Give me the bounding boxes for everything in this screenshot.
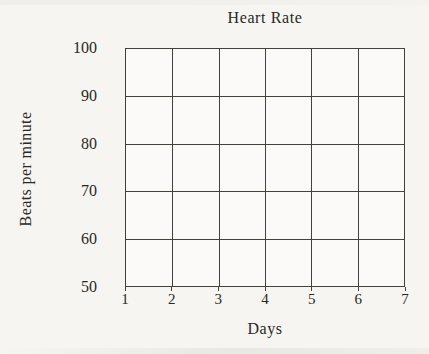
y-tick-label: 100: [40, 40, 97, 56]
grid-line-horizontal: [126, 191, 404, 192]
x-axis-tick-mark: [405, 287, 406, 291]
x-tick-label: 4: [250, 292, 280, 307]
y-tick-label: 60: [40, 231, 97, 247]
plot-area: [125, 48, 405, 287]
y-tick-label: 80: [40, 136, 97, 152]
grid-line-vertical: [219, 49, 220, 286]
grid-line-horizontal: [126, 144, 404, 145]
x-axis-tick-mark: [171, 287, 172, 291]
chart: Heart Rate Beats per minute 100908070605…: [0, 0, 429, 354]
x-axis-tick-mark: [311, 287, 312, 291]
x-axis-tick-mark: [125, 287, 126, 291]
x-tick-label: 7: [390, 292, 420, 307]
grid-line-vertical: [358, 49, 359, 286]
y-tick-label: 90: [40, 88, 97, 104]
grid-line-vertical: [311, 49, 312, 286]
x-tick-label: 3: [203, 292, 233, 307]
x-axis-tick-mark: [218, 287, 219, 291]
grid-line-vertical: [265, 49, 266, 286]
scan-artifact-top: [0, 0, 429, 5]
x-axis-tick-mark: [358, 287, 359, 291]
x-axis-tick-mark: [265, 287, 266, 291]
x-tick-label: 6: [343, 292, 373, 307]
x-tick-label: 5: [297, 292, 327, 307]
y-axis-label: Beats per minute: [17, 112, 35, 227]
x-tick-label: 2: [157, 292, 187, 307]
grid-line-vertical: [172, 49, 173, 286]
x-tick-label: 1: [110, 292, 140, 307]
grid-line-horizontal: [126, 239, 404, 240]
x-axis-label: Days: [125, 320, 405, 338]
chart-title: Heart Rate: [125, 9, 405, 27]
y-tick-label: 50: [40, 279, 97, 295]
scan-artifact-bottom: [0, 348, 429, 354]
y-tick-label: 70: [40, 183, 97, 199]
grid-line-horizontal: [126, 96, 404, 97]
